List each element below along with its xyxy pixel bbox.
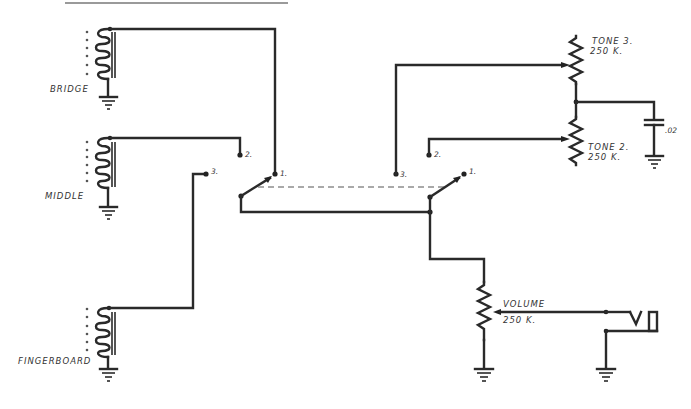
switch2-contact-1 (461, 171, 466, 176)
wiring-schematic: BRIDGE MIDDLE (0, 0, 691, 409)
volume-pot: VOLUME 250 K. (475, 282, 606, 381)
pole-pieces-icon (86, 31, 89, 76)
jack-icon (630, 312, 657, 331)
capacitor-value: .02 (665, 126, 677, 135)
switch1-contact-2 (237, 152, 242, 157)
tone2-wire (429, 139, 562, 155)
switch1-label-3: 3. (211, 167, 218, 176)
switch2-label-1: 1. (469, 167, 476, 176)
switch1-contact-1 (272, 171, 277, 176)
output-jack (597, 310, 657, 381)
resistor-icon (570, 117, 582, 165)
tone3-pot: TONE 3. 250 K. (570, 36, 633, 102)
resistor-icon (570, 36, 582, 84)
switch2-label-2: 2. (434, 150, 441, 159)
switch1-label-2: 2. (245, 150, 252, 159)
tone3-wire (396, 65, 562, 174)
tone2-value: 250 K. (588, 152, 621, 162)
coil-icon (96, 29, 115, 79)
tone2-pot: TONE 2. 250 K. (570, 102, 629, 165)
middle-label: MIDDLE (45, 191, 84, 201)
ground-icon (646, 156, 663, 168)
pickup-wires (109, 29, 275, 308)
resistor-icon (478, 282, 490, 340)
ground-icon (100, 97, 117, 109)
volume-label: VOLUME (503, 299, 545, 309)
pole-pieces-icon (86, 141, 89, 183)
switch2-label-3: 3. (400, 170, 407, 179)
tone2-label: TONE 2. (588, 142, 629, 152)
pole-pieces-icon (86, 308, 89, 352)
fingerboard-pickup: FINGERBOARD (18, 306, 117, 381)
volume-value: 250 K. (503, 315, 536, 325)
switch2-blade (430, 178, 459, 197)
bridge-label: BRIDGE (50, 84, 89, 94)
ground-icon (597, 369, 615, 381)
coil-icon (96, 138, 115, 188)
ground-icon (100, 207, 117, 219)
switch1-label-1: 1. (280, 169, 287, 178)
ground-icon (475, 369, 493, 381)
switch1-contact-3 (203, 171, 208, 176)
bridge-pickup: BRIDGE (50, 27, 117, 109)
ground-icon (100, 369, 117, 381)
tone-selector-switch: 2. 1. 3. (393, 150, 476, 215)
coil-icon (96, 308, 115, 357)
middle-pickup: MIDDLE (45, 136, 117, 219)
tone3-value: 250 K. (590, 46, 623, 56)
switch-common-bus (241, 196, 430, 212)
switch1-blade (241, 178, 270, 196)
tone3-label: TONE 3. (592, 36, 633, 46)
fingerboard-label: FINGERBOARD (18, 356, 91, 366)
volume-feed-wire (430, 212, 484, 282)
